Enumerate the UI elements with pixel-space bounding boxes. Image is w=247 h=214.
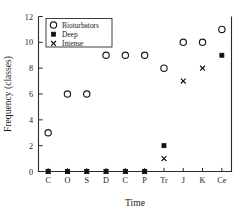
y-tick-label: 0 bbox=[29, 168, 33, 177]
data-point bbox=[122, 52, 128, 58]
y-tick-label: 6 bbox=[29, 90, 33, 99]
legend: BioturbatorsDeepIntense bbox=[46, 19, 112, 49]
data-point bbox=[46, 170, 50, 174]
y-axis-title: Frequency (classes) bbox=[2, 56, 14, 132]
data-point bbox=[103, 52, 109, 58]
series-deep bbox=[46, 53, 224, 173]
data-point bbox=[162, 156, 167, 161]
x-tick-label: Ce bbox=[217, 176, 226, 185]
data-point bbox=[65, 170, 69, 174]
y-tick-label: 4 bbox=[29, 116, 33, 125]
x-tick-label: Tr bbox=[160, 176, 168, 185]
y-tick-label: 12 bbox=[25, 13, 33, 22]
legend-label: Bioturbators bbox=[62, 21, 99, 30]
data-point bbox=[104, 170, 108, 174]
x-tick-label: C bbox=[123, 176, 129, 185]
data-point bbox=[85, 170, 89, 174]
x-tick-label: S bbox=[84, 176, 89, 185]
scatter-plot-canvas: 024681012COSDCPTrJKCeTimeFrequency (clas… bbox=[0, 0, 247, 214]
x-tick-label: O bbox=[64, 176, 70, 185]
data-point bbox=[162, 144, 166, 148]
chart-figure: 024681012COSDCPTrJKCeTimeFrequency (clas… bbox=[0, 0, 247, 214]
x-tick-label: P bbox=[142, 176, 147, 185]
data-point bbox=[181, 79, 186, 84]
data-point bbox=[220, 53, 224, 57]
data-point bbox=[143, 170, 147, 174]
legend-marker-filled-square bbox=[52, 32, 56, 36]
data-point bbox=[45, 130, 51, 136]
legend-label: Intense bbox=[62, 39, 84, 48]
data-point bbox=[219, 26, 225, 32]
x-tick-label: D bbox=[103, 176, 109, 185]
series-intense bbox=[46, 66, 205, 174]
data-point bbox=[161, 65, 167, 71]
x-tick-label: J bbox=[182, 176, 186, 185]
data-point bbox=[180, 39, 186, 45]
legend-label: Deep bbox=[62, 30, 78, 39]
x-tick-label: K bbox=[200, 176, 206, 185]
data-point bbox=[200, 66, 205, 71]
x-tick-label: C bbox=[45, 176, 51, 185]
data-point bbox=[123, 170, 127, 174]
data-point bbox=[84, 91, 90, 97]
y-tick-label: 8 bbox=[29, 64, 33, 73]
x-axis-title: Time bbox=[125, 197, 145, 208]
data-point bbox=[64, 91, 70, 97]
data-point bbox=[142, 52, 148, 58]
y-tick-label: 2 bbox=[29, 142, 33, 151]
y-tick-label: 10 bbox=[25, 38, 33, 47]
data-point bbox=[199, 39, 205, 45]
